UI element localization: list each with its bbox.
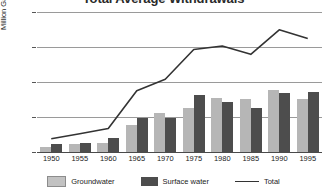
legend-label-total: Total xyxy=(264,177,280,186)
y-tick-mark xyxy=(32,47,36,48)
chart-title: Total Average Withdrawals xyxy=(0,0,327,6)
x-axis-labels: 1950195519601965197019751980198519901995 xyxy=(37,154,322,166)
total-line-series xyxy=(37,12,322,152)
total-line-path xyxy=(51,30,308,139)
y-tick-mark xyxy=(32,12,36,13)
legend-item-surface-water: Surface water xyxy=(141,177,209,186)
legend-line-total-icon xyxy=(235,181,259,182)
x-tick-label: 1965 xyxy=(128,154,145,163)
x-tick-label: 1985 xyxy=(242,154,259,163)
legend-swatch-surface-water-icon xyxy=(141,177,158,186)
gridline xyxy=(37,152,322,153)
y-tick-mark xyxy=(32,152,36,153)
x-tick-label: 1975 xyxy=(185,154,202,163)
chart-container: Total Average Withdrawals Million Gallon… xyxy=(0,0,327,193)
x-tick-label: 1970 xyxy=(157,154,174,163)
legend-item-groundwater: Groundwater xyxy=(47,176,114,187)
legend-item-total: Total xyxy=(235,177,280,186)
plot-area: 01,0002,0003,0004,000 xyxy=(37,12,322,152)
x-tick-label: 1955 xyxy=(71,154,88,163)
x-tick-label: 1995 xyxy=(299,154,316,163)
y-tick-mark xyxy=(32,82,36,83)
x-tick-label: 1980 xyxy=(214,154,231,163)
legend-swatch-groundwater-icon xyxy=(47,176,66,187)
y-tick-mark xyxy=(32,117,36,118)
x-tick-label: 1960 xyxy=(100,154,117,163)
y-axis-title: Million Gallons per Day xyxy=(0,0,8,30)
legend-label-groundwater: Groundwater xyxy=(71,177,114,186)
x-tick-label: 1990 xyxy=(271,154,288,163)
chart-legend: Groundwater Surface water Total xyxy=(0,171,327,191)
total-line-svg xyxy=(37,12,322,152)
x-tick-label: 1950 xyxy=(43,154,60,163)
legend-label-surface-water: Surface water xyxy=(163,177,209,186)
